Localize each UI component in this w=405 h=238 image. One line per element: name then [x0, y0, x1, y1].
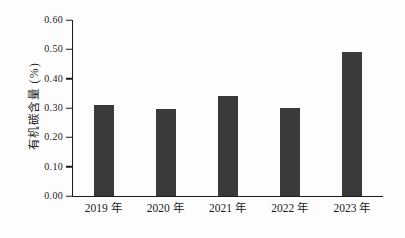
- bar-slot: [135, 20, 197, 196]
- y-axis-tick: [66, 49, 72, 51]
- bar-2022年: [280, 108, 300, 196]
- x-axis-label: 2019 年: [72, 203, 134, 215]
- bar-slot: [259, 20, 321, 196]
- y-axis-tick: [66, 137, 72, 139]
- y-axis-tick: [66, 195, 72, 197]
- y-axis-tick: [66, 166, 72, 168]
- y-axis-tick-label: 0.20: [44, 132, 63, 142]
- bar-2020年: [156, 109, 176, 196]
- bar-slot: [73, 20, 135, 196]
- y-axis-tick: [66, 19, 72, 21]
- bar-slot: [321, 20, 383, 196]
- y-axis-tick-label: 0.00: [44, 191, 63, 201]
- x-axis-label: 2020 年: [134, 203, 196, 215]
- x-axis-label: 2021 年: [196, 203, 258, 215]
- y-axis-tick: [66, 107, 72, 109]
- y-axis-tick-label: 0.50: [44, 44, 63, 54]
- y-axis-tick-label: 0.30: [44, 103, 63, 113]
- bar-2023年: [342, 52, 362, 196]
- bar-slot: [197, 20, 259, 196]
- x-axis-label: 2022 年: [259, 203, 321, 215]
- x-axis-labels: 2019 年2020 年2021 年2022 年2023 年: [72, 203, 383, 215]
- bar-chart-figure: 有机碳含量 (%) 0.000.100.200.300.400.500.60 2…: [0, 0, 405, 238]
- y-axis-title: 有机碳含量 (%): [25, 62, 41, 151]
- bar-2021年: [218, 96, 238, 196]
- y-axis-tick-label: 0.10: [44, 162, 63, 172]
- bars-container: [73, 20, 383, 196]
- bar-2019年: [94, 105, 114, 196]
- y-axis-tick-label: 0.40: [44, 74, 63, 84]
- plot-area: 0.000.100.200.300.400.500.60: [72, 20, 383, 197]
- y-axis-tick-label: 0.60: [44, 15, 63, 25]
- y-axis-tick: [66, 78, 72, 80]
- x-axis-label: 2023 年: [321, 203, 383, 215]
